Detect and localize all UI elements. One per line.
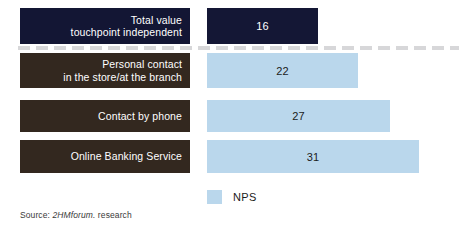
category-label-box-3[interactable]: Online Banking Service	[20, 140, 190, 173]
source-emphasis: 2HMforum.	[52, 210, 95, 220]
category-label-2: Contact by phone	[98, 110, 182, 123]
chart-row: Contact by phone 27	[0, 100, 467, 132]
category-label-1: Personal contact in the store/at the bra…	[63, 58, 182, 83]
chart-row: Personal contact in the store/at the bra…	[0, 53, 467, 88]
category-label-box-1[interactable]: Personal contact in the store/at the bra…	[20, 53, 190, 88]
bar-value-2: 27	[292, 110, 305, 122]
separator-dashed-line	[18, 46, 459, 50]
bar-0[interactable]: 16	[207, 8, 318, 44]
bar-3[interactable]: 31	[207, 140, 419, 173]
bar-2[interactable]: 27	[207, 100, 390, 132]
legend-label-nps: NPS	[233, 191, 257, 203]
bar-value-1: 22	[276, 65, 289, 77]
legend: NPS	[207, 190, 257, 204]
bar-value-0: 16	[256, 20, 269, 32]
category-label-0: Total value touchpoint independent	[71, 14, 182, 39]
chart-row: Total value touchpoint independent 16	[0, 8, 467, 44]
bar-value-3: 31	[307, 151, 320, 163]
source-note: Source: 2HMforum. research	[20, 210, 132, 220]
category-label-box-0[interactable]: Total value touchpoint independent	[20, 8, 190, 44]
category-label-box-2[interactable]: Contact by phone	[20, 100, 190, 132]
chart-row: Online Banking Service 31	[0, 140, 467, 173]
nps-bar-chart: Total value touchpoint independent 16 Pe…	[0, 0, 467, 233]
category-label-3: Online Banking Service	[71, 150, 182, 163]
source-suffix: research	[95, 210, 131, 220]
legend-swatch-nps	[207, 190, 222, 204]
source-prefix: Source:	[20, 210, 52, 220]
bar-1[interactable]: 22	[207, 53, 358, 88]
